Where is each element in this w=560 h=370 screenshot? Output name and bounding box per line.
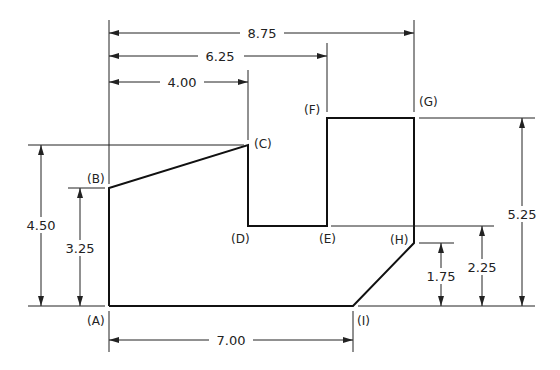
- point-label-e: (E): [319, 232, 336, 246]
- dim-label-3-25: 3.25: [66, 241, 95, 256]
- dim-label-4-50: 4.50: [27, 218, 56, 233]
- point-label-h: (H): [390, 233, 408, 247]
- point-label-d: (D): [231, 232, 250, 246]
- dim-label-4-00: 4.00: [168, 75, 197, 90]
- point-label-a: (A): [87, 314, 105, 328]
- point-label-g: (G): [419, 95, 438, 109]
- point-label-b: (B): [87, 172, 105, 186]
- dim-label-6-25: 6.25: [206, 49, 235, 64]
- point-label-c: (C): [254, 137, 272, 151]
- dim-label-1-75: 1.75: [427, 269, 456, 284]
- dim-label-5-25: 5.25: [508, 207, 537, 222]
- dim-label-7-00: 7.00: [217, 333, 246, 348]
- technical-drawing: 8.75 6.25 4.00 7.00 4.50 3.25 1.75 2.25 …: [0, 0, 560, 370]
- point-label-i: (I): [357, 314, 370, 328]
- dim-label-2-25: 2.25: [468, 260, 497, 275]
- point-label-f: (F): [304, 103, 320, 117]
- dim-label-8-75: 8.75: [248, 26, 277, 41]
